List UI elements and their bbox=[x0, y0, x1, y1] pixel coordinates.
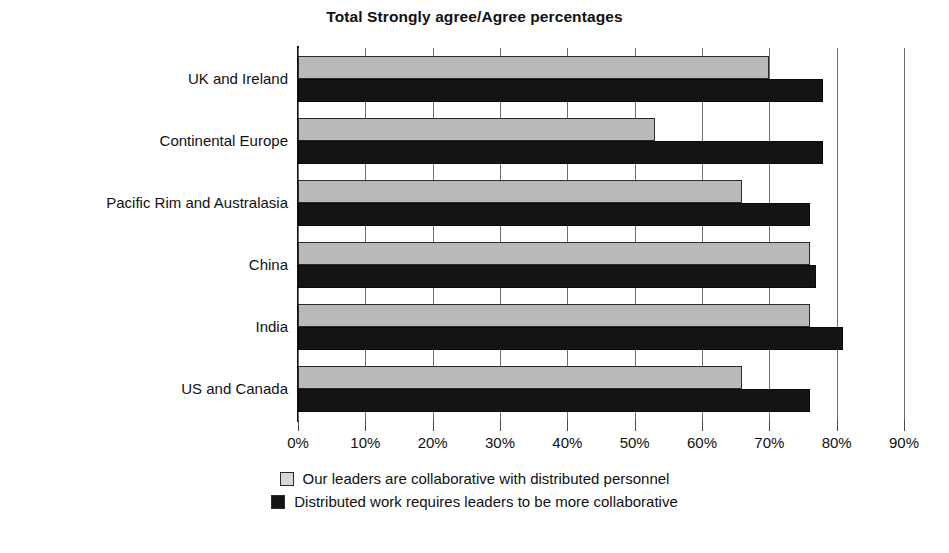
category-label: Pacific Rim and Australasia bbox=[0, 194, 288, 211]
bar bbox=[298, 180, 742, 203]
bar bbox=[298, 366, 742, 389]
x-tick-mark bbox=[769, 420, 770, 431]
x-tick-label: 40% bbox=[552, 434, 582, 451]
legend-swatch-black-icon bbox=[271, 495, 285, 509]
x-gridline bbox=[433, 48, 434, 420]
x-tick-mark bbox=[635, 420, 636, 431]
x-tick-label: 50% bbox=[620, 434, 650, 451]
x-tick-label: 90% bbox=[889, 434, 919, 451]
x-tick-mark bbox=[365, 420, 366, 431]
x-gridline bbox=[904, 48, 905, 420]
category-label: Continental Europe bbox=[0, 132, 288, 149]
bar bbox=[298, 118, 655, 141]
x-tick-label: 0% bbox=[287, 434, 309, 451]
x-tick-label: 70% bbox=[754, 434, 784, 451]
x-gridline bbox=[567, 48, 568, 420]
x-gridline bbox=[702, 48, 703, 420]
legend-item-label: Distributed work requires leaders to be … bbox=[294, 493, 678, 510]
bar bbox=[298, 56, 769, 79]
legend-item[interactable]: Distributed work requires leaders to be … bbox=[271, 493, 678, 510]
bar bbox=[298, 265, 816, 288]
x-tick-label: 10% bbox=[350, 434, 380, 451]
x-tick-mark bbox=[567, 420, 568, 431]
bar bbox=[298, 389, 810, 412]
x-tick-mark bbox=[837, 420, 838, 431]
x-gridline bbox=[635, 48, 636, 420]
category-label: China bbox=[0, 256, 288, 273]
x-tick-label: 30% bbox=[485, 434, 515, 451]
x-tick-mark bbox=[298, 420, 299, 431]
bar-chart: Total Strongly agree/Agree percentages 0… bbox=[0, 0, 949, 553]
bar bbox=[298, 79, 823, 102]
x-tick-mark bbox=[433, 420, 434, 431]
legend-item[interactable]: Our leaders are collaborative with distr… bbox=[280, 470, 670, 487]
plot-area: 0%10%20%30%40%50%60%70%80%90% bbox=[298, 48, 904, 420]
bar bbox=[298, 242, 810, 265]
x-gridline bbox=[500, 48, 501, 420]
bar bbox=[298, 327, 843, 350]
x-tick-mark bbox=[500, 420, 501, 431]
x-tick-mark bbox=[904, 420, 905, 431]
x-gridline bbox=[298, 48, 299, 420]
x-tick-label: 60% bbox=[687, 434, 717, 451]
x-gridline bbox=[365, 48, 366, 420]
category-label: India bbox=[0, 318, 288, 335]
x-tick-mark bbox=[702, 420, 703, 431]
category-label: US and Canada bbox=[0, 380, 288, 397]
chart-title: Total Strongly agree/Agree percentages bbox=[0, 8, 949, 26]
legend-item-label: Our leaders are collaborative with distr… bbox=[303, 470, 670, 487]
bar bbox=[298, 141, 823, 164]
category-label: UK and Ireland bbox=[0, 70, 288, 87]
x-gridline bbox=[837, 48, 838, 420]
bar bbox=[298, 203, 810, 226]
chart-legend: Our leaders are collaborative with distr… bbox=[0, 470, 949, 510]
x-tick-label: 20% bbox=[418, 434, 448, 451]
x-gridline bbox=[769, 48, 770, 420]
x-tick-label: 80% bbox=[822, 434, 852, 451]
legend-swatch-gray-icon bbox=[280, 472, 294, 486]
bar bbox=[298, 304, 810, 327]
